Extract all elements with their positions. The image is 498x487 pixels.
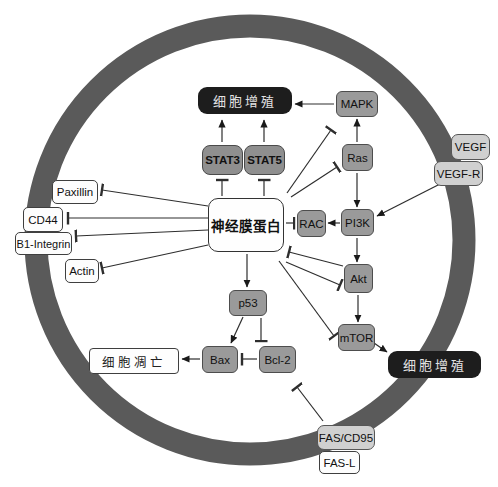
node-fas-cd95: FAS/CD95 [317,425,375,450]
node-proliferation-right: 细胞增殖 [388,351,481,378]
node-apoptosis: 细胞凋亡 [89,348,179,374]
pathway-diagram: 细胞增殖 MAPK STAT3 STAT5 Ras VEGF VEGF-R 神经… [0,0,498,487]
node-pi3k: PI3K [341,209,374,236]
node-rac: RAC [297,210,326,237]
edge-merlin-inhibits-mtor [279,261,334,336]
node-p53: p53 [229,290,267,316]
node-vegf: VEGF [451,134,490,160]
node-vegf-r: VEGF-R [434,161,483,186]
edge-vegfr-activates-pi3k [377,184,440,216]
edge-p53-activates-bax [231,317,243,343]
node-fas-l: FAS-L [319,451,360,474]
node-cd44: CD44 [23,207,63,232]
node-b1-integrin: B1-Integrin [15,232,72,255]
node-bax: Bax [202,346,238,373]
node-paxillin: Paxillin [52,180,98,204]
node-proliferation-top: 细胞增殖 [198,87,292,114]
node-mtor: mTOR [338,324,375,351]
node-akt: Akt [344,264,373,293]
edge-merlin-inhibits-paxillin [102,190,208,206]
node-actin: Actin [65,259,99,283]
node-merlin-central-protein: 神经膜蛋白 [208,198,284,252]
edge-mtor-activates-proliferation-right [374,343,387,352]
edge-fas-inhibits-bcl2 [297,387,323,421]
edge-akt-inhibits-merlin [289,252,343,266]
edge-merlin-inhibits-ras [291,167,337,197]
node-stat5: STAT5 [244,145,285,175]
node-bcl2: Bcl-2 [259,346,296,373]
node-ras: Ras [342,144,373,171]
edge-merlin-inhibits-b1-integrin [76,230,208,236]
edge-merlin-inhibits-actin [102,245,208,268]
node-stat3: STAT3 [202,145,243,175]
node-mapk: MAPK [336,91,378,117]
edge-merlin-inhibits-mapk [287,130,331,193]
